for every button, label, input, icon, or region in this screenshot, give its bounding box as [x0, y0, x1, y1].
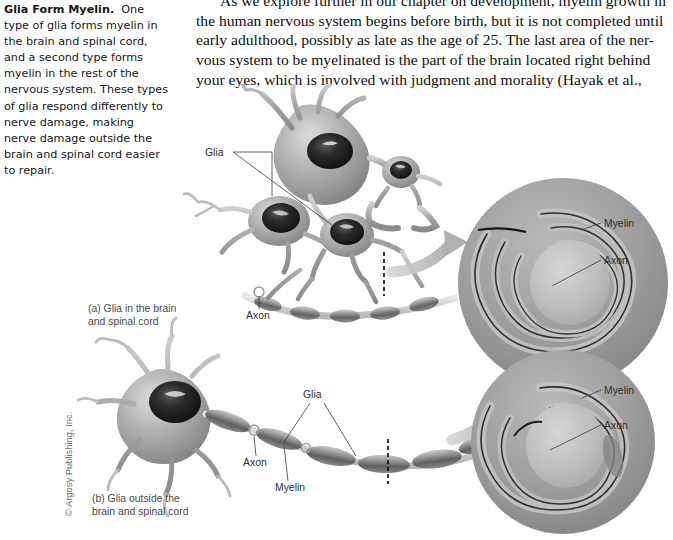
label-myelin-cross-a: Myelin: [604, 218, 634, 229]
panel-a-illustration: Glia Axon: [184, 84, 468, 322]
panel-a-caption: (a) Glia in the brain and spinal cord: [88, 303, 177, 327]
label-glia-text-a: Glia: [205, 147, 224, 158]
body-line-2: the human nervous system begins before b…: [196, 11, 673, 31]
publisher-credit: © Argosy Publishing, Inc.: [63, 412, 74, 516]
body-line-1: As we explore further in our chapter on …: [196, 0, 673, 11]
label-axon-text-b: Axon: [243, 457, 267, 468]
figure-caption-title: Glia Form Myelin.: [4, 3, 114, 16]
label-glia-text-b: Glia: [303, 389, 322, 400]
body-line-3: early adulthood, possibly as late as the…: [196, 30, 673, 50]
glia-myelin-figure: Glia Axon Myelin Axon: [0, 84, 673, 540]
page-body-text: As we explore further in our chapter on …: [196, 0, 673, 90]
glia-cell-left: [184, 194, 333, 272]
label-axon-cross-a: Axon: [604, 255, 628, 266]
panel-b-illustration: Glia Axon Myelin: [78, 318, 516, 516]
glia-cell-right: [368, 156, 440, 230]
panel-b-caption-line1: (b) Glia outside the: [92, 493, 180, 504]
label-myelin-panel-b: Myelin: [275, 446, 305, 493]
glia-cell-upper: [242, 84, 392, 205]
label-myelin-cross-b: Myelin: [604, 385, 634, 396]
label-axon-text-a: Axon: [246, 310, 270, 321]
cross-section-circle-b: Myelin Axon: [471, 350, 655, 534]
panel-a-caption-line1: (a) Glia in the brain: [88, 303, 177, 314]
label-myelin-text-b: Myelin: [275, 482, 305, 493]
panel-b-caption: (b) Glia outside the brain and spinal co…: [92, 493, 189, 517]
panel-a-caption-line2: and spinal cord: [88, 316, 159, 327]
body-line-4: vous system to be myelinated is the part…: [196, 50, 673, 70]
label-axon-cross-b: Axon: [604, 420, 628, 431]
panel-b-caption-line2: brain and spinal cord: [92, 506, 189, 517]
